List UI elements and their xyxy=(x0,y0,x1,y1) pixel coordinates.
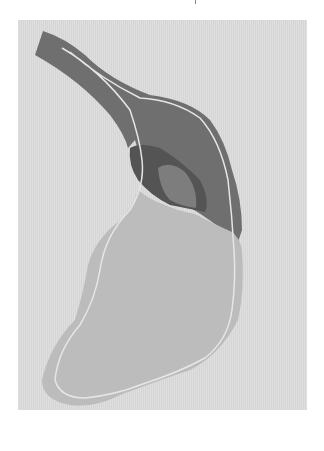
cutout-figure xyxy=(0,0,324,451)
